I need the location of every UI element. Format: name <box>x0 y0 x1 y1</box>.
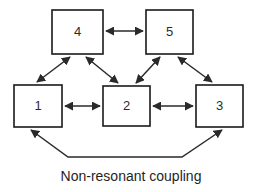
node-5[interactable]: 5 <box>146 10 193 54</box>
link-5-2 <box>136 57 160 83</box>
link-5-3 <box>178 57 212 82</box>
node-4[interactable]: 4 <box>52 10 103 54</box>
link-1-3-nonresonant <box>31 130 222 157</box>
diagram-caption: Non-resonant coupling <box>61 168 202 184</box>
node-5-label: 5 <box>166 24 173 39</box>
node-3[interactable]: 3 <box>196 85 243 127</box>
coupling-diagram: 4 5 1 2 3 Non-resonant coupling <box>0 0 253 192</box>
node-4-label: 4 <box>74 24 81 39</box>
node-1[interactable]: 1 <box>14 85 62 127</box>
node-2[interactable]: 2 <box>103 86 150 126</box>
node-3-label: 3 <box>216 98 223 113</box>
diagram-canvas: 4 5 1 2 3 Non-resonant coupling <box>0 0 253 192</box>
link-4-1 <box>37 57 70 82</box>
link-4-2 <box>86 57 118 83</box>
node-1-label: 1 <box>34 98 41 113</box>
node-2-label: 2 <box>123 98 130 113</box>
